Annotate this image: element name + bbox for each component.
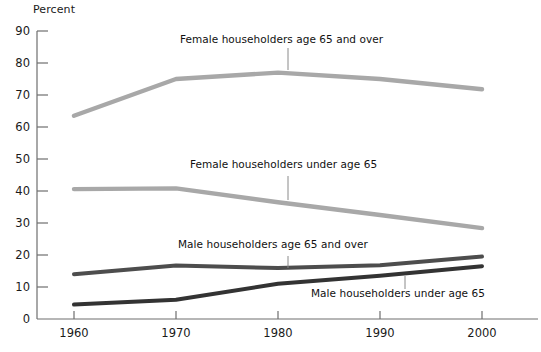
y-axis-ticks bbox=[37, 31, 48, 287]
chart-plot-svg bbox=[0, 0, 541, 352]
series-lines bbox=[74, 73, 482, 305]
chart-container: Percent 90 80 70 60 50 40 30 20 10 0 196… bbox=[0, 0, 541, 352]
series-line-female-under-65 bbox=[74, 188, 482, 228]
series-label-male-under-65: Male householders under age 65 bbox=[311, 287, 485, 299]
series-label-female-65-over: Female householders age 65 and over bbox=[180, 33, 383, 45]
series-label-male-65-over: Male householders age 65 and over bbox=[178, 238, 368, 250]
series-line-female-65-over bbox=[74, 73, 482, 116]
series-label-female-under-65: Female householders under age 65 bbox=[190, 158, 377, 170]
x-axis-ticks bbox=[74, 311, 482, 319]
